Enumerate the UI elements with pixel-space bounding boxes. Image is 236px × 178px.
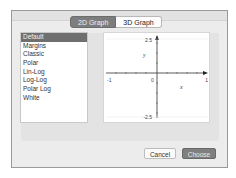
- template-item-white[interactable]: White: [21, 94, 87, 103]
- template-item-polar[interactable]: Polar: [21, 59, 87, 68]
- template-list: Default Margins Classic Polar Lin-Log Lo…: [20, 32, 88, 123]
- axes-graphic: 2.5 -2.5 -1 1 0 y x: [104, 33, 211, 124]
- template-item-classic[interactable]: Classic: [21, 50, 87, 59]
- template-item-margins[interactable]: Margins: [21, 42, 87, 51]
- y-axis-label: y: [142, 52, 146, 58]
- y-min-label: -2.5: [143, 114, 152, 120]
- template-item-default[interactable]: Default: [21, 33, 87, 42]
- template-item-log-log[interactable]: Log-Log: [21, 76, 87, 85]
- cancel-button[interactable]: Cancel: [144, 148, 176, 159]
- y-max-label: 2.5: [145, 37, 152, 43]
- choose-button[interactable]: Choose: [182, 148, 216, 159]
- template-item-lin-log[interactable]: Lin-Log: [21, 68, 87, 77]
- template-item-polar-log[interactable]: Polar Log: [21, 85, 87, 94]
- x-axis-label: x: [179, 84, 183, 90]
- tab-3d-graph[interactable]: 3D Graph: [116, 16, 161, 28]
- tab-2d-graph[interactable]: 2D Graph: [70, 16, 116, 28]
- graph-type-segmented-control: 2D Graph 3D Graph: [70, 16, 162, 28]
- graph-preview: 2.5 -2.5 -1 1 0 y x: [103, 32, 210, 123]
- x-max-label: 1: [205, 77, 208, 83]
- origin-label: 0: [151, 77, 154, 83]
- x-min-label: -1: [107, 77, 112, 83]
